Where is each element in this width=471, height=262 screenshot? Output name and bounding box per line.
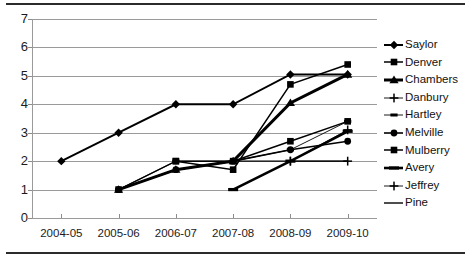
legend-item-danbury[interactable]: Danbury bbox=[383, 89, 469, 107]
legend-label: Danbury bbox=[405, 92, 448, 104]
square-icon bbox=[383, 143, 404, 157]
square-icon bbox=[383, 55, 404, 69]
legend-item-pine[interactable]: Pine bbox=[383, 194, 469, 212]
y-tick-label-2: 2 bbox=[6, 154, 28, 167]
y-tick-mark bbox=[28, 218, 32, 219]
y-tick-label-7: 7 bbox=[6, 12, 28, 25]
y-tick-label-4: 4 bbox=[6, 97, 28, 110]
circle-icon bbox=[383, 126, 404, 140]
x-tick-label-2009-10: 2009-10 bbox=[313, 228, 383, 240]
series-layer bbox=[32, 19, 377, 218]
document-rule-top bbox=[6, 3, 465, 5]
legend-label: Mulberry bbox=[405, 145, 450, 157]
y-tick-label-0: 0 bbox=[6, 211, 28, 224]
x-axis-labels: 2004-052005-062006-072007-082008-092009-… bbox=[32, 228, 377, 244]
legend-item-denver[interactable]: Denver bbox=[383, 54, 469, 72]
legend-item-mulberry[interactable]: Mulberry bbox=[383, 142, 469, 160]
line-icon bbox=[383, 196, 404, 210]
legend-item-saylor[interactable]: Saylor bbox=[383, 36, 469, 54]
thickline-icon bbox=[383, 161, 404, 175]
legend-item-avery[interactable]: Avery bbox=[383, 159, 469, 177]
legend-item-hartley[interactable]: Hartley bbox=[383, 106, 469, 124]
legend-label: Hartley bbox=[405, 109, 441, 121]
diamond-icon bbox=[383, 38, 404, 52]
cross-icon bbox=[383, 91, 404, 105]
chart-legend: SaylorDenverChambersDanburyHartleyMelvil… bbox=[383, 36, 469, 212]
chart-page: 01234567 2004-052005-062006-072007-08200… bbox=[0, 0, 471, 262]
legend-label: Avery bbox=[405, 162, 434, 174]
document-rule-bottom bbox=[6, 252, 465, 254]
legend-label: Saylor bbox=[405, 39, 438, 51]
series-line bbox=[176, 64, 348, 169]
plot-area bbox=[32, 19, 377, 218]
legend-item-melville[interactable]: Melville bbox=[383, 124, 469, 142]
legend-item-jeffrey[interactable]: Jeffrey bbox=[383, 177, 469, 195]
legend-label: Melville bbox=[405, 127, 443, 139]
y-tick-label-3: 3 bbox=[6, 126, 28, 139]
y-tick-label-1: 1 bbox=[6, 183, 28, 196]
series-hartley bbox=[115, 120, 351, 191]
y-tick-label-6: 6 bbox=[6, 40, 28, 53]
series-line bbox=[119, 121, 348, 189]
series-mulberry bbox=[115, 118, 351, 193]
series-melville bbox=[115, 138, 351, 193]
legend-label: Jeffrey bbox=[405, 180, 439, 192]
plus-icon bbox=[383, 179, 404, 193]
series-line bbox=[119, 121, 348, 189]
legend-label: Pine bbox=[405, 197, 428, 209]
gridline-0 bbox=[32, 218, 377, 219]
legend-label: Denver bbox=[405, 57, 442, 69]
dash-icon bbox=[383, 108, 404, 122]
triangle-icon bbox=[383, 73, 404, 87]
legend-label: Chambers bbox=[405, 74, 458, 86]
legend-item-chambers[interactable]: Chambers bbox=[383, 71, 469, 89]
y-tick-label-5: 5 bbox=[6, 69, 28, 82]
